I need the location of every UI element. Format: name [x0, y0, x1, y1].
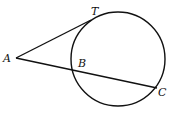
- point-label-b: B: [77, 57, 86, 70]
- tangent-segment-AT: [16, 20, 91, 58]
- point-label-c: C: [158, 86, 167, 99]
- point-label-a: A: [2, 52, 11, 65]
- geometry-diagram: A T B C: [0, 0, 171, 113]
- secant-segment-AC: [16, 58, 157, 88]
